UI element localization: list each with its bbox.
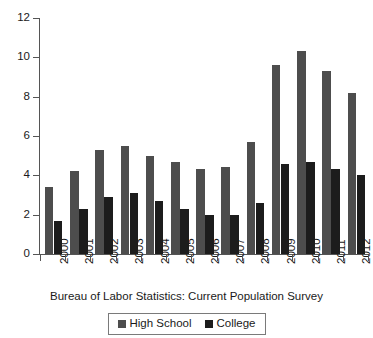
y-tick-label-0: 0 — [0, 248, 30, 260]
y-tick-8 — [33, 97, 40, 98]
y-tick-label-2: 2 — [0, 209, 30, 221]
bar-group-2012 — [348, 18, 366, 254]
x-tick-2004 — [141, 255, 142, 261]
y-tick-label-12: 12 — [0, 12, 30, 24]
legend-label-high-school: High School — [129, 317, 191, 330]
x-tick-2007 — [217, 255, 218, 261]
bar-group-2009 — [272, 18, 290, 254]
chart-figure: 024681012 200020012002200320042005200620… — [0, 0, 373, 338]
bar-high-school-2011 — [322, 71, 331, 254]
bar-high-school-2007 — [221, 167, 230, 254]
y-tick-label-4: 4 — [0, 169, 30, 181]
y-tick-4 — [33, 175, 40, 176]
bar-high-school-2005 — [171, 162, 180, 254]
bar-high-school-2002 — [95, 150, 104, 254]
bar-high-school-2003 — [121, 146, 130, 254]
bar-college-2008 — [256, 203, 265, 254]
x-tick-end — [368, 255, 369, 261]
bar-college-2003 — [130, 193, 139, 254]
x-tick-2008 — [242, 255, 243, 261]
bar-group-2000 — [45, 18, 63, 254]
bar-group-2001 — [70, 18, 88, 254]
x-tick-2006 — [191, 255, 192, 261]
bar-group-2002 — [95, 18, 113, 254]
x-tick-2002 — [90, 255, 91, 261]
bar-college-2004 — [155, 201, 164, 254]
y-tick-10 — [33, 57, 40, 58]
bar-college-2006 — [205, 215, 214, 254]
bar-group-2006 — [196, 18, 214, 254]
x-tick-2010 — [292, 255, 293, 261]
legend-entry-college: College — [205, 317, 256, 330]
bar-college-2001 — [79, 209, 88, 254]
y-tick-label-10: 10 — [0, 51, 30, 63]
bar-college-2009 — [281, 164, 290, 254]
legend-label-college: College — [217, 317, 256, 330]
bar-high-school-2001 — [70, 171, 79, 254]
x-axis-label: Bureau of Labor Statistics: Current Popu… — [0, 290, 373, 302]
x-tick-2012 — [343, 255, 344, 261]
bar-college-2011 — [331, 169, 340, 254]
x-tick-2009 — [267, 255, 268, 261]
legend-swatch-college — [205, 320, 213, 328]
chart-legend: High School College — [107, 313, 265, 335]
bar-high-school-2000 — [45, 187, 54, 254]
bar-high-school-2006 — [196, 169, 205, 254]
bar-high-school-2012 — [348, 93, 357, 254]
bar-group-2007 — [221, 18, 239, 254]
bar-high-school-2008 — [247, 142, 256, 254]
bar-group-2011 — [322, 18, 340, 254]
legend-entry-high-school: High School — [117, 317, 191, 330]
bar-group-2003 — [121, 18, 139, 254]
bar-high-school-2004 — [146, 156, 155, 254]
bar-group-2008 — [247, 18, 265, 254]
x-tick-2001 — [65, 255, 66, 261]
x-tick-2011 — [318, 255, 319, 261]
bar-college-2005 — [180, 209, 189, 254]
bar-group-2005 — [171, 18, 189, 254]
bar-high-school-2010 — [297, 51, 306, 254]
y-tick-2 — [33, 215, 40, 216]
bar-college-2012 — [357, 175, 366, 254]
y-tick-6 — [33, 136, 40, 137]
x-tick-2005 — [166, 255, 167, 261]
bar-college-2010 — [306, 162, 315, 254]
bar-high-school-2009 — [272, 65, 281, 254]
bar-college-2002 — [104, 197, 113, 254]
y-tick-0 — [33, 254, 40, 255]
bar-group-2004 — [146, 18, 164, 254]
x-tick-2003 — [116, 255, 117, 261]
y-tick-12 — [33, 18, 40, 19]
y-tick-label-8: 8 — [0, 91, 30, 103]
x-tick-2000 — [40, 255, 41, 261]
legend-swatch-high-school — [117, 320, 125, 328]
bar-college-2000 — [54, 221, 63, 254]
plot-area — [40, 18, 368, 254]
bar-group-2010 — [297, 18, 315, 254]
y-tick-label-6: 6 — [0, 130, 30, 142]
bar-college-2007 — [230, 215, 239, 254]
